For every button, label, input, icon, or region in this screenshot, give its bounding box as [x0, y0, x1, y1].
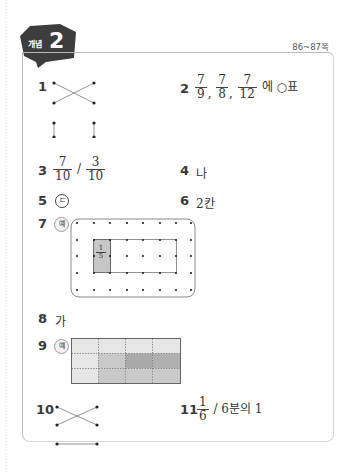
question-number-8: 8	[38, 311, 47, 326]
denominator: 6	[197, 410, 209, 423]
q7-dot-grid-diagram	[70, 218, 196, 298]
q7-shaded-fraction: 1 5	[96, 245, 106, 260]
example-label: 예	[54, 339, 69, 354]
numerator: 7	[238, 74, 257, 88]
question-number-4: 4	[180, 163, 189, 178]
q11-answer: 16 / 6분의 1	[196, 396, 262, 422]
q11-text: 6분의 1	[221, 402, 262, 416]
numerator: 7	[53, 156, 72, 170]
q5-answer-circled: ㄷ	[55, 194, 69, 208]
denominator: 12	[238, 88, 257, 101]
q1-dot-matching-diagram	[50, 78, 100, 138]
question-number-1: 1	[38, 79, 47, 94]
q2-suffix: 에 ○표	[262, 80, 298, 94]
q4-answer: 나	[196, 164, 207, 181]
numerator: 7	[216, 74, 228, 88]
q8-answer: 가	[55, 312, 66, 329]
q10-dot-matching-diagram	[54, 404, 102, 452]
question-number-3: 3	[38, 163, 47, 178]
q2-answer: 79, 78, 712 에 ○표	[194, 74, 298, 100]
badge-number: 2	[49, 28, 64, 53]
denominator: 10	[53, 170, 72, 183]
page-range: 86~87쪽	[292, 40, 329, 52]
badge-label: 개념	[28, 38, 41, 49]
separator: /	[77, 162, 81, 176]
numerator: 7	[195, 74, 207, 88]
fraction: 710	[53, 156, 72, 182]
fraction: 16	[197, 396, 209, 422]
denominator: 10	[86, 170, 105, 183]
question-number-5: 5	[38, 193, 47, 208]
denominator: 9	[195, 88, 207, 101]
separator: ,	[208, 86, 212, 100]
separator: /	[213, 402, 217, 416]
fraction: 310	[86, 156, 105, 182]
denominator: 5	[96, 253, 106, 260]
q9-shaded-grid-diagram	[71, 338, 182, 385]
separator: ,	[229, 86, 233, 100]
numerator: 1	[197, 396, 209, 410]
question-number-7: 7	[38, 216, 47, 231]
q3-answer: 710 / 310	[52, 156, 106, 182]
fraction: 712	[238, 74, 257, 100]
example-label: 예	[54, 217, 69, 232]
numerator: 3	[86, 156, 105, 170]
question-number-10: 10	[36, 402, 54, 417]
fraction: 78	[216, 74, 228, 100]
question-number-2: 2	[180, 81, 189, 96]
denominator: 8	[216, 88, 228, 101]
question-number-6: 6	[180, 193, 189, 208]
page-edge-rule	[5, 0, 7, 474]
q6-answer: 2칸	[196, 194, 215, 211]
fraction: 79	[195, 74, 207, 100]
question-number-9: 9	[38, 338, 47, 353]
